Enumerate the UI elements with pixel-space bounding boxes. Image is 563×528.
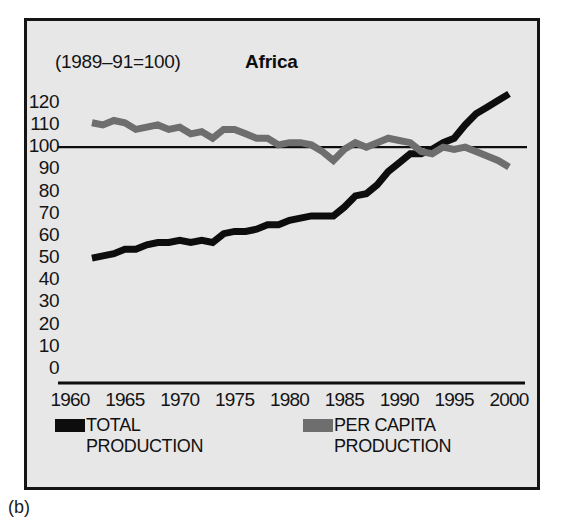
y-tick-label: 60 <box>13 224 59 246</box>
x-tick-label: 1995 <box>426 389 482 411</box>
x-tick-label: 1975 <box>207 389 263 411</box>
y-tick-label: 120 <box>13 91 59 113</box>
y-tick-label: 10 <box>13 335 59 357</box>
y-tick-label: 40 <box>13 268 59 290</box>
legend-entry-total-production: TOTAL PRODUCTION <box>55 415 203 457</box>
legend-label: PER CAPITA PRODUCTION <box>334 415 451 457</box>
figure-caption: (b) <box>8 497 30 518</box>
x-tick-label: 1985 <box>316 389 372 411</box>
x-tick-label: 1990 <box>371 389 427 411</box>
legend-entry-per-capita-production: PER CAPITA PRODUCTION <box>303 415 451 457</box>
y-tick-label: 80 <box>13 180 59 202</box>
gray-bar-swatch <box>303 419 333 432</box>
chart-title: Africa <box>245 51 298 73</box>
x-tick-label: 1970 <box>152 389 208 411</box>
y-tick-label: 110 <box>13 113 59 135</box>
y-tick-label: 50 <box>13 246 59 268</box>
legend-label: TOTAL PRODUCTION <box>86 415 203 457</box>
x-tick-label: 1960 <box>42 389 98 411</box>
x-tick-label: 2000 <box>481 389 537 411</box>
x-tick-label: 1980 <box>262 389 318 411</box>
y-tick-label: 30 <box>13 290 59 312</box>
x-tick-label: 1965 <box>97 389 153 411</box>
chart-figure: (1989–91=100) Africa 0102030405060708090… <box>24 18 540 490</box>
index-note: (1989–91=100) <box>55 51 181 73</box>
y-tick-label: 100 <box>13 135 59 157</box>
chart-legend: TOTAL PRODUCTION PER CAPITA PRODUCTION <box>27 415 537 485</box>
y-tick-label: 20 <box>13 313 59 335</box>
y-tick-label: 70 <box>13 202 59 224</box>
series-lines <box>92 94 509 258</box>
black-bar-swatch <box>55 419 85 432</box>
series-line-total-production <box>92 94 509 258</box>
y-tick-label: 0 <box>13 357 59 379</box>
y-tick-label: 90 <box>13 157 59 179</box>
